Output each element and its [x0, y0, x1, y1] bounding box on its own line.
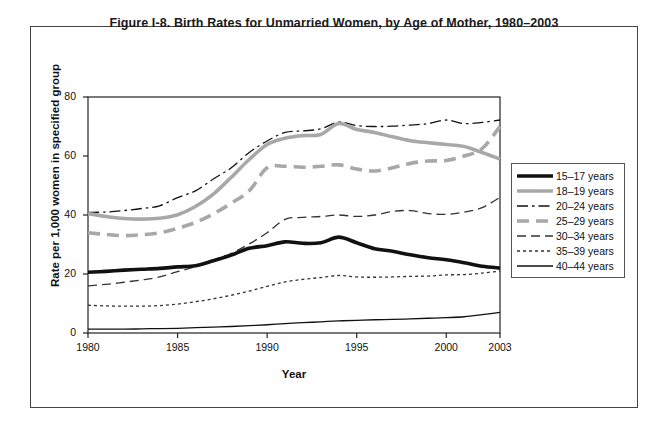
y-tick-label: 40: [46, 208, 76, 220]
y-tick-label: 80: [46, 90, 76, 102]
chart-legend: 15–17 years18–19 years20–24 years25–29 y…: [511, 163, 625, 278]
legend-item: 20–24 years: [516, 198, 620, 213]
legend-item: 40–44 years: [516, 258, 620, 273]
legend-label: 18–19 years: [554, 185, 614, 197]
legend-line-swatch: [516, 200, 554, 212]
legend-line-swatch: [516, 215, 554, 227]
legend-label: 15–17 years: [554, 170, 614, 182]
x-tick-label: 1980: [66, 341, 110, 353]
legend-line-swatch: [516, 185, 554, 197]
y-tick-label: 20: [46, 267, 76, 279]
x-tick-label: 1990: [245, 341, 289, 353]
legend-label: 30–34 years: [554, 230, 614, 242]
x-axis-title: Year: [88, 368, 500, 380]
x-tick-label: 2003: [478, 341, 522, 353]
legend-line-swatch: [516, 230, 554, 242]
legend-item: 30–34 years: [516, 228, 620, 243]
legend-item: 35–39 years: [516, 243, 620, 258]
legend-item: 15–17 years: [516, 168, 620, 183]
y-tick-label: 0: [46, 326, 76, 338]
legend-label: 25–29 years: [554, 215, 614, 227]
legend-line-swatch: [516, 260, 554, 272]
figure-title: Figure I-8. Birth Rates for Unmarried Wo…: [0, 16, 668, 30]
x-tick-label: 1995: [335, 341, 379, 353]
legend-label: 40–44 years: [554, 260, 614, 272]
legend-line-swatch: [516, 170, 554, 182]
legend-label: 35–39 years: [554, 245, 614, 257]
legend-item: 25–29 years: [516, 213, 620, 228]
x-tick-label: 2000: [424, 341, 468, 353]
y-tick-label: 60: [46, 149, 76, 161]
x-tick-label: 1985: [156, 341, 200, 353]
legend-label: 20–24 years: [554, 200, 614, 212]
legend-line-swatch: [516, 245, 554, 257]
legend-item: 18–19 years: [516, 183, 620, 198]
